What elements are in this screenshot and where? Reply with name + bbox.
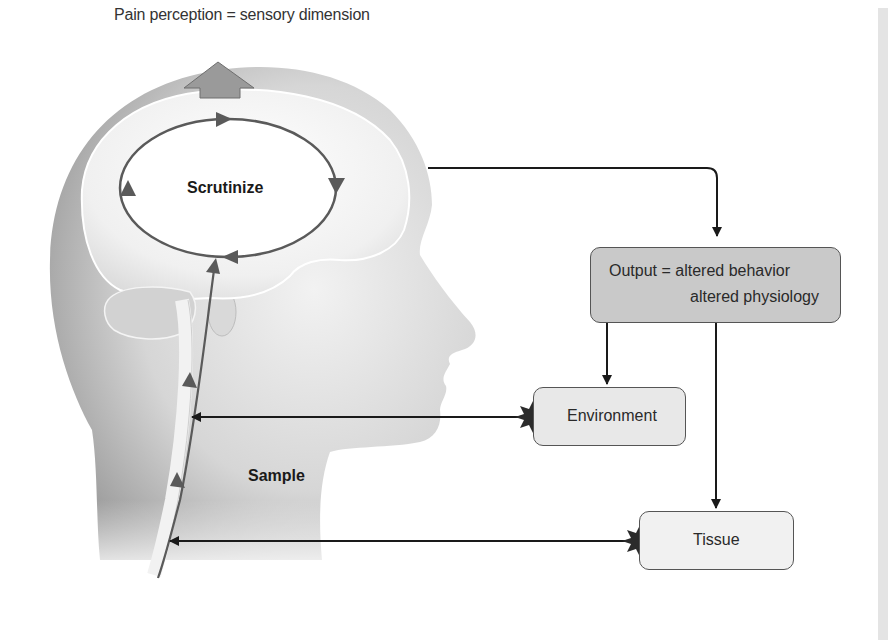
tissue-label: Tissue: [693, 531, 740, 549]
environment-label: Environment: [567, 407, 657, 425]
page-edge-strip: [878, 8, 888, 640]
sample-label: Sample: [248, 467, 305, 485]
tissue-box: Tissue: [639, 511, 794, 570]
output-line-2: altered physiology: [690, 288, 819, 306]
brain-to-output-connector: [428, 168, 717, 236]
scrutinize-label: Scrutinize: [187, 179, 263, 197]
output-line-1: Output = altered behavior: [609, 262, 790, 280]
pain-perception-label: Pain perception = sensory dimension: [114, 6, 370, 24]
environment-box: Environment: [533, 387, 686, 446]
output-box: Output = altered behavior altered physio…: [590, 247, 841, 323]
